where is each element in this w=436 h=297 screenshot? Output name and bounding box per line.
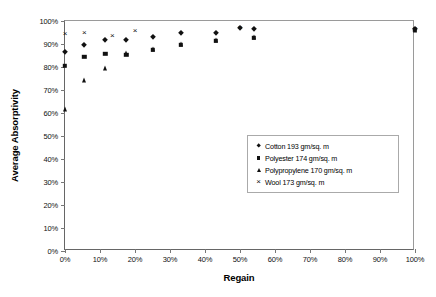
x-axis-tick — [380, 249, 381, 253]
y-axis-tick — [61, 136, 65, 137]
data-point-triangle — [179, 42, 183, 47]
x-axis-title: Regain — [64, 272, 414, 283]
data-point-diamond — [251, 26, 257, 32]
y-axis-tick — [61, 205, 65, 206]
x-axis-tick-label: 90% — [373, 255, 387, 264]
y-axis-tick-label: 70% — [44, 86, 58, 95]
legend-item-label: Polyester 174 gm/sq. m — [264, 154, 337, 163]
data-point-square — [103, 51, 107, 55]
data-point-diamond — [150, 34, 156, 40]
data-point-triangle — [82, 77, 86, 82]
y-axis-tick-label: 80% — [44, 63, 58, 72]
legend-item-label: Wool 173 gm/sq. m — [264, 178, 324, 187]
x-axis-tick — [240, 249, 241, 253]
x-axis-tick — [345, 249, 346, 253]
data-point-diamond — [102, 37, 108, 43]
y-axis-tick-label: 10% — [44, 224, 58, 233]
x-axis-tick — [135, 249, 136, 253]
data-point-cross — [62, 31, 68, 37]
y-axis-title-label: Average Absorptivity — [9, 89, 20, 182]
x-axis-tick-label: 50% — [233, 255, 247, 264]
y-axis-tick — [61, 113, 65, 114]
data-point-cross — [237, 25, 243, 31]
legend-marker-triangle-icon — [253, 165, 264, 176]
x-axis-tick — [100, 249, 101, 253]
y-axis-tick-label: 30% — [44, 178, 58, 187]
x-axis-tick-label: 0% — [60, 255, 70, 264]
chart-legend: Cotton 193 gm/sq. mPolyester 174 gm/sq. … — [247, 135, 399, 193]
x-axis-tick-label: 20% — [128, 255, 142, 264]
legend-item: Wool 173 gm/sq. m — [253, 176, 394, 188]
data-point-diamond — [123, 37, 129, 43]
data-point-square — [82, 54, 86, 58]
x-axis-tick-label: 10% — [93, 255, 107, 264]
y-axis-tick — [61, 90, 65, 91]
data-point-cross — [109, 33, 115, 39]
y-axis-tick — [61, 182, 65, 183]
data-point-diamond — [81, 42, 87, 48]
legend-marker-cross-icon — [253, 177, 264, 188]
y-axis-tick-label: 20% — [44, 201, 58, 210]
y-axis-title: Average Absorptivity — [6, 20, 22, 250]
legend-item: Polyester 174 gm/sq. m — [253, 152, 394, 164]
y-axis-tick-label: 50% — [44, 132, 58, 141]
x-axis-tick — [310, 249, 311, 253]
y-axis-tick — [61, 228, 65, 229]
data-point-triangle — [103, 66, 107, 71]
x-axis-tick-label: 60% — [268, 255, 282, 264]
y-axis-tick-label: 40% — [44, 155, 58, 164]
data-point-triangle — [151, 46, 155, 51]
data-point-cross — [132, 28, 138, 34]
data-point-cross — [81, 30, 87, 36]
x-axis-tick — [415, 249, 416, 253]
y-axis-tick — [61, 21, 65, 22]
y-axis-tick-label: 60% — [44, 109, 58, 118]
legend-marker-square-icon — [253, 153, 264, 164]
scatter-chart: Average Absorptivity 0%10%20%30%40%50%60… — [0, 0, 436, 297]
data-point-square — [63, 64, 67, 68]
data-point-triangle — [214, 37, 218, 42]
y-axis-tick-label: 0% — [48, 247, 58, 256]
legend-item: Cotton 193 gm/sq. m — [253, 140, 394, 152]
y-axis-tick-label: 100% — [40, 17, 58, 26]
y-axis-tick-label: 90% — [44, 40, 58, 49]
data-point-diamond — [62, 49, 68, 55]
data-point-triangle — [124, 50, 128, 55]
x-axis-tick — [275, 249, 276, 253]
data-point-triangle — [252, 34, 256, 39]
data-point-triangle — [63, 106, 67, 111]
data-point-cross — [412, 26, 418, 32]
x-axis-tick-label: 80% — [338, 255, 352, 264]
x-axis-tick-label: 70% — [303, 255, 317, 264]
x-axis-tick — [205, 249, 206, 253]
y-axis-tick — [61, 159, 65, 160]
legend-item: Polypropylene 170 gm/sq. m — [253, 164, 394, 176]
data-point-diamond — [213, 30, 219, 36]
x-axis-tick — [170, 249, 171, 253]
data-point-diamond — [178, 30, 184, 36]
x-axis-tick-label: 40% — [198, 255, 212, 264]
legend-marker-diamond-icon — [253, 141, 264, 152]
x-axis-tick-label: 100% — [406, 255, 424, 264]
x-axis-tick — [65, 249, 66, 253]
legend-item-label: Polypropylene 170 gm/sq. m — [264, 166, 352, 175]
y-axis-tick — [61, 44, 65, 45]
x-axis-tick-label: 30% — [163, 255, 177, 264]
legend-item-label: Cotton 193 gm/sq. m — [264, 142, 329, 151]
